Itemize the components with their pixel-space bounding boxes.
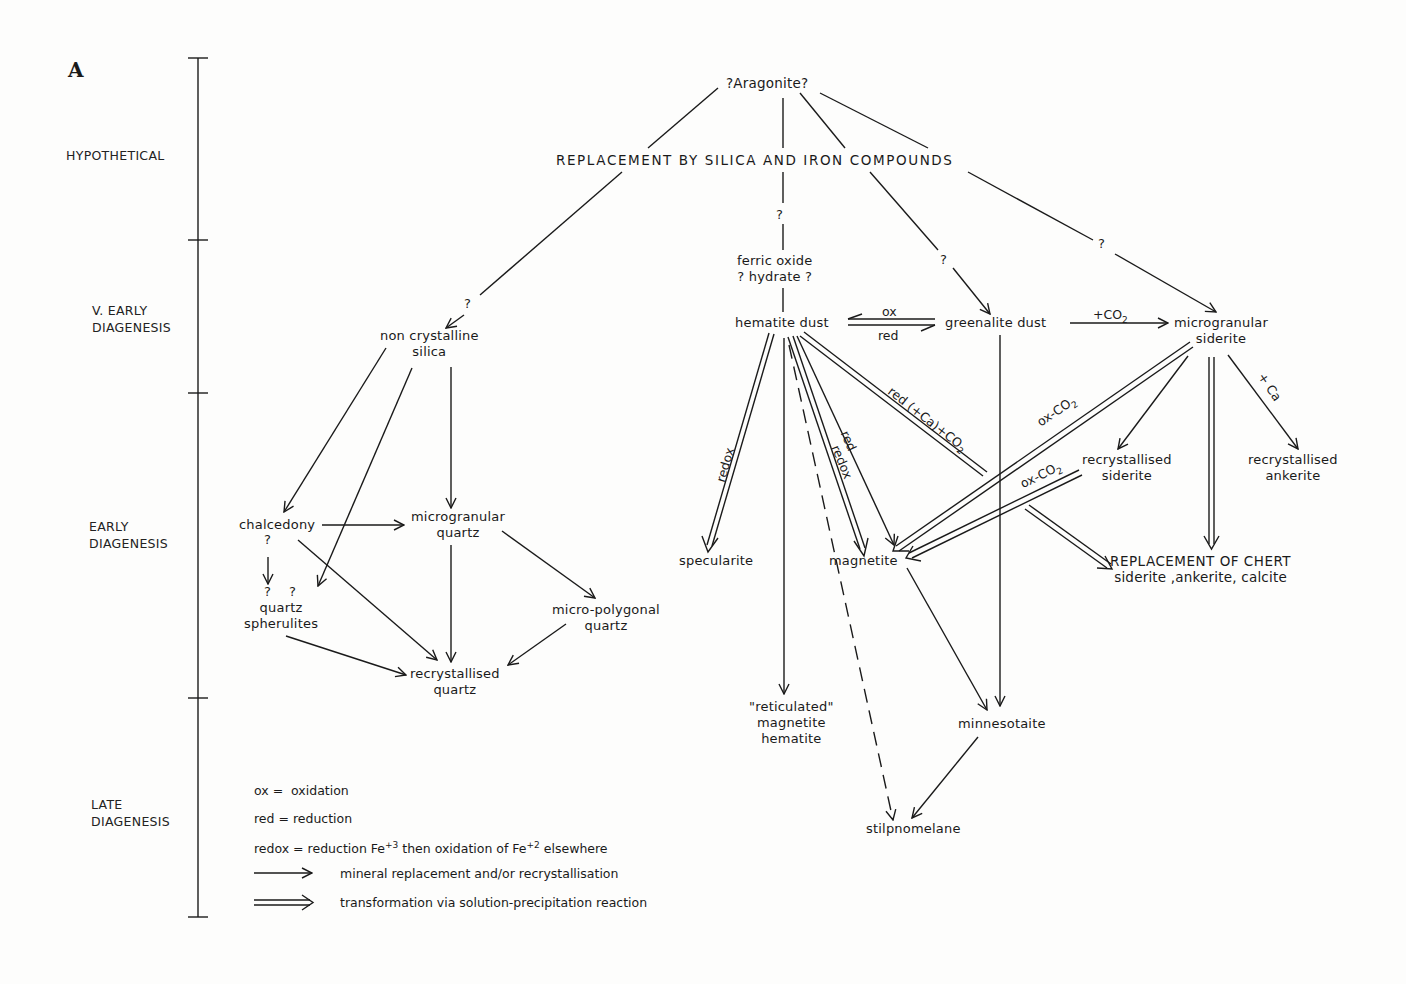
node-greenalite-dust: greenalite dust <box>945 315 1046 331</box>
stage-label-line: DIAGENESIS <box>91 813 170 830</box>
node-line: microgranular <box>1174 315 1268 331</box>
node-non-crystalline-silica: non crystalline silica <box>380 328 479 360</box>
node-line: ? hydrate ? <box>737 269 812 285</box>
uncertainty-mark: ? <box>264 532 271 548</box>
node-line: recrystallised <box>410 666 500 682</box>
node-reticulated-magnetite-hematite: "reticulated" magnetite hematite <box>749 699 834 747</box>
stage-early-diagenesis: EARLY DIAGENESIS <box>89 518 168 552</box>
node-line: quartz <box>244 600 318 616</box>
edge-label-ox: ox <box>882 305 897 319</box>
node-microgranular-quartz: microgranular quartz <box>411 509 505 541</box>
node-line: silica <box>380 344 479 360</box>
stage-label-line: EARLY <box>89 518 168 535</box>
node-line: siderite ,ankerite, calcite <box>1110 569 1291 585</box>
node-specularite: specularite <box>679 553 753 569</box>
legend-text: reduction Fe <box>308 841 385 856</box>
legend-text: then oxidation of Fe <box>398 841 526 856</box>
node-line: siderite <box>1082 468 1172 484</box>
diagram-lines <box>0 0 1406 984</box>
legend-single-arrow-text: mineral replacement and/or recrystallisa… <box>340 866 618 881</box>
node-hematite-dust: hematite dust <box>735 315 829 331</box>
edge-label-subscript: 2 <box>1122 315 1128 325</box>
node-microgranular-siderite: microgranular siderite <box>1174 315 1268 347</box>
node-ferric-oxide-hydrate: ferric oxide ? hydrate ? <box>737 253 812 285</box>
node-line: ankerite <box>1248 468 1338 484</box>
uncertainty-mark: ? <box>940 252 947 268</box>
legend-red: red = reduction <box>254 811 352 826</box>
node-minnesotaite: minnesotaite <box>958 716 1046 732</box>
stage-v-early-diagenesis: V. EARLY DIAGENESIS <box>92 302 171 336</box>
edge-label-red: red <box>878 329 899 343</box>
node-line: quartz <box>552 618 660 634</box>
panel-label: A <box>68 58 84 82</box>
node-chalcedony: chalcedony <box>239 517 315 533</box>
node-line: recrystallised <box>1082 452 1172 468</box>
legend-double-arrow-text: transformation via solution-precipitatio… <box>340 895 647 910</box>
stage-label-line: DIAGENESIS <box>92 319 171 336</box>
uncertainty-mark: ? <box>776 207 783 223</box>
stage-late-diagenesis: LATE DIAGENESIS <box>91 796 170 830</box>
uncertainty-mark: ? <box>289 584 296 600</box>
node-line: hematite <box>749 731 834 747</box>
node-replacement-of-chert: REPLACEMENT OF CHERT siderite ,ankerite,… <box>1110 553 1291 585</box>
node-magnetite: magnetite <box>829 553 898 569</box>
edge-label-text: +CO <box>1093 307 1122 322</box>
node-micro-polygonal-quartz: micro-polygonal quartz <box>552 602 660 634</box>
node-line: spherulites <box>244 616 318 632</box>
legend-superscript: +2 <box>527 840 540 850</box>
node-line: ferric oxide <box>737 253 812 269</box>
node-line: microgranular <box>411 509 505 525</box>
node-line: non crystalline <box>380 328 479 344</box>
node-line: siderite <box>1174 331 1268 347</box>
legend-key: red = <box>254 811 289 826</box>
legend-key: ox = <box>254 783 283 798</box>
legend-key: redox = <box>254 841 304 856</box>
node-line: micro-polygonal <box>552 602 660 618</box>
node-line: quartz <box>411 525 505 541</box>
legend-redox: redox = reduction Fe+3 then oxidation of… <box>254 838 608 856</box>
node-aragonite: ?Aragonite? <box>726 75 808 91</box>
legend-double-arrow <box>254 895 313 910</box>
legend-text: elsewhere <box>540 841 608 856</box>
edge-label-plus-co2: +CO2 <box>1093 308 1128 327</box>
node-quartz-spherulites: quartz spherulites <box>244 600 318 632</box>
node-replacement-by-silica-and-iron: REPLACEMENT BY SILICA AND IRON COMPOUNDS <box>556 152 954 168</box>
legend-text: oxidation <box>291 783 349 798</box>
legend-superscript: +3 <box>385 840 398 850</box>
node-line: magnetite <box>749 715 834 731</box>
stage-label-line: LATE <box>91 796 170 813</box>
node-recrystallised-siderite: recrystallised siderite <box>1082 452 1172 484</box>
node-stilpnomelane: stilpnomelane <box>866 821 961 837</box>
uncertainty-mark: ? <box>1098 236 1105 252</box>
stage-label-line: V. EARLY <box>92 302 171 319</box>
node-line: "reticulated" <box>749 699 834 715</box>
uncertainty-mark: ? <box>464 296 471 312</box>
legend-ox: ox = oxidation <box>254 783 349 798</box>
node-recrystallised-ankerite: recrystallised ankerite <box>1248 452 1338 484</box>
stage-label-line: DIAGENESIS <box>89 535 168 552</box>
node-recrystallised-quartz: recrystallised quartz <box>410 666 500 698</box>
uncertainty-mark: ? <box>264 584 271 600</box>
node-line: recrystallised <box>1248 452 1338 468</box>
timeline-axis <box>188 58 208 917</box>
stage-label-line: HYPOTHETICAL <box>66 147 165 164</box>
legend-text: reduction <box>293 811 352 826</box>
node-line: REPLACEMENT OF CHERT <box>1110 553 1291 569</box>
diagenesis-diagram: A HYPOTHETICAL V. EARLY DIAGENESIS EARLY… <box>0 0 1406 984</box>
stage-hypothetical: HYPOTHETICAL <box>66 147 165 164</box>
node-line: quartz <box>410 682 500 698</box>
